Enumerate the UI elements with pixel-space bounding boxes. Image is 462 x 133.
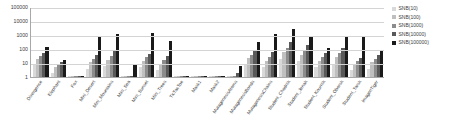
bar	[45, 47, 48, 77]
bar-group	[349, 8, 367, 77]
bar-group	[102, 8, 120, 77]
bar	[63, 60, 66, 77]
bar-group	[296, 8, 314, 77]
x-axis-tick: Mini_Trees	[155, 79, 173, 133]
bar	[309, 36, 312, 77]
x-axis-tick-label: Mini_Sea	[117, 80, 132, 98]
legend-label: SNB(1000)	[399, 23, 424, 28]
x-axis-tick: Mini_Sunset	[137, 79, 155, 133]
bar-group	[243, 8, 261, 77]
legend-item[interactable]: SNB(100)	[392, 15, 462, 20]
legend-label: SNB(100000)	[399, 40, 429, 45]
bar	[221, 76, 224, 77]
bar-groups	[32, 8, 384, 77]
bar	[362, 37, 365, 77]
y-axis-tick-label: 1	[25, 75, 28, 80]
bar-group	[331, 8, 349, 77]
x-axis-tick-label: Elephant	[47, 80, 61, 97]
x-axis-tick-label: Fox	[71, 80, 79, 89]
legend-item[interactable]: SNB(1000)	[392, 23, 462, 28]
bar-group	[120, 8, 138, 77]
y-axis-tick-label: 100000	[11, 5, 28, 10]
legend-item[interactable]: SNB(10)	[392, 6, 462, 11]
x-axis-tick: Elephant	[49, 79, 67, 133]
bar	[345, 36, 348, 77]
legend-swatch-icon	[392, 32, 396, 36]
y-axis: 110100100010000100000	[0, 0, 30, 86]
plot-area	[30, 8, 384, 78]
bar-group	[314, 8, 332, 77]
gridline	[31, 8, 384, 9]
bar	[169, 41, 172, 77]
bar	[133, 64, 136, 77]
legend-swatch-icon	[392, 7, 396, 11]
bar-chart: 110100100010000100000 DivergenceElephant…	[0, 0, 462, 133]
bar	[204, 76, 207, 77]
x-axis-tick-label: TicTacToe	[170, 80, 186, 99]
legend-label: SNB(10000)	[399, 32, 427, 37]
y-axis-tick-label: 1000	[16, 33, 28, 38]
bar	[81, 76, 84, 77]
x-axis-tick: Mini_Mountains	[102, 79, 120, 133]
bar	[327, 48, 330, 77]
x-axis-tick: ImagenTiger	[367, 79, 385, 133]
gridline	[31, 50, 384, 51]
bar-group	[261, 8, 279, 77]
y-axis-tick-label: 10	[22, 61, 28, 66]
bar-group	[155, 8, 173, 77]
legend-item[interactable]: SNB(100000)	[392, 40, 462, 45]
bar	[98, 37, 101, 77]
x-axis-tick: Divergence	[31, 79, 49, 133]
y-axis-tick-label: 100	[19, 47, 28, 52]
y-axis-tick-label: 10000	[14, 19, 28, 24]
x-axis-tick: Mask1	[190, 79, 208, 133]
bar-group	[85, 8, 103, 77]
bar-group	[67, 8, 85, 77]
bar-group	[208, 8, 226, 77]
legend: SNB(10)SNB(100)SNB(1000)SNB(10000)SNB(10…	[392, 6, 462, 45]
legend-swatch-icon	[392, 24, 396, 28]
bar	[186, 76, 189, 77]
bar-group	[138, 8, 156, 77]
bar-group	[50, 8, 68, 77]
bar-group	[366, 8, 384, 77]
x-axis-tick-label: Mask2	[209, 80, 221, 94]
bar	[239, 66, 242, 77]
x-axis-tick: Student_Oborsk	[332, 79, 350, 133]
bar-group	[226, 8, 244, 77]
bar	[257, 42, 260, 77]
gridline	[31, 36, 384, 37]
bar-group	[32, 8, 50, 77]
bar-group	[173, 8, 191, 77]
legend-swatch-icon	[392, 15, 396, 19]
gridline	[31, 22, 384, 23]
gridline	[31, 64, 384, 65]
x-axis-tick-label: Mask1	[191, 80, 203, 94]
bar-group	[190, 8, 208, 77]
bar	[116, 34, 119, 77]
bar	[274, 34, 277, 77]
x-axis-tick: TicTacToe	[173, 79, 191, 133]
legend-label: SNB(10)	[399, 6, 418, 11]
bar	[151, 33, 154, 77]
x-axis-tick: Mini_Sea	[120, 79, 138, 133]
legend-swatch-icon	[392, 41, 396, 45]
legend-item[interactable]: SNB(10000)	[392, 32, 462, 37]
x-axis-tick: Fox	[66, 79, 84, 133]
x-axis: DivergenceElephantFoxMini_DesertMini_Mou…	[31, 79, 385, 133]
bar-group	[278, 8, 296, 77]
x-axis-tick: Student_Tarsk	[350, 79, 368, 133]
legend-label: SNB(100)	[399, 15, 421, 20]
